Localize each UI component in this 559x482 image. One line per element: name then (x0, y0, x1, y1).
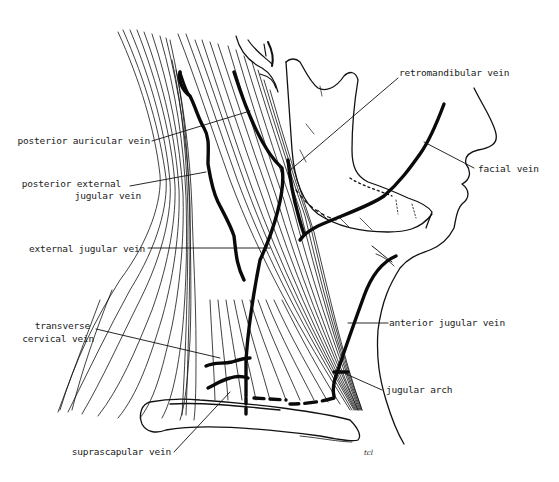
label-transverse-cervical-vein-line2: cervical vein (22, 333, 94, 345)
label-posterior-external-jugular-vein-line2: jugular vein (75, 190, 141, 202)
leader-retromandibular (288, 78, 398, 172)
trapezius-muscle-fibers (58, 30, 196, 420)
label-external-jugular-vein: external jugular vein (29, 243, 145, 255)
leader-posterior-external-jugular (130, 172, 206, 186)
clavicle-outline (140, 399, 359, 442)
transverse-cervical-vein (206, 358, 250, 366)
leader-facial (424, 142, 474, 168)
anterior-jugular-vein (333, 256, 396, 396)
facial-vein (300, 104, 444, 240)
label-transverse-cervical-vein-line1: transverse (35, 320, 90, 332)
label-posterior-auricular-vein: posterior auricular vein (18, 135, 150, 147)
label-retromandibular-vein: retromandibular vein (399, 67, 509, 79)
label-suprascapular-vein: suprascapular vein (72, 446, 171, 458)
label-jugular-arch: jugular arch (386, 384, 452, 396)
neck-veins-diagram: posterior auricular vein posterior exter… (0, 0, 559, 482)
leader-suprascapular (174, 392, 230, 452)
ear-outline (236, 36, 278, 92)
leader-transverse-cervical (96, 329, 220, 358)
external-jugular-vein (234, 72, 283, 396)
mandible-outline (286, 59, 432, 232)
label-anterior-jugular-vein: anterior jugular vein (389, 317, 505, 329)
posterior-external-jugular-vein (179, 72, 244, 280)
artist-signature: tcl (364, 449, 373, 457)
label-facial-vein: facial vein (478, 163, 539, 175)
label-posterior-external-jugular-vein-line1: posterior external (22, 178, 121, 190)
